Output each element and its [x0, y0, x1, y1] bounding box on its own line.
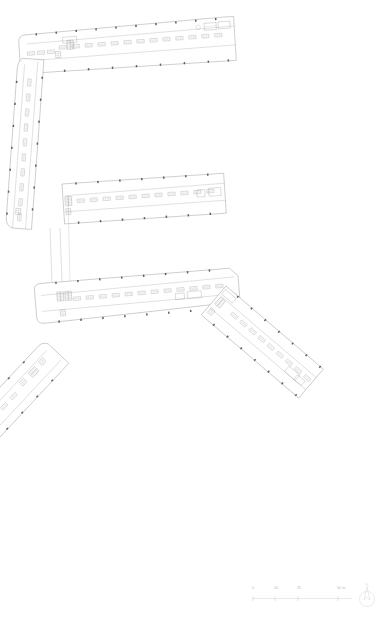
scale-tick-label-50: 50 m: [337, 586, 345, 591]
wing-central: [62, 173, 226, 225]
north-arrow-label: N: [366, 583, 369, 587]
wing-southwest: [0, 340, 69, 542]
scale-tick-label-10: 10: [274, 586, 278, 591]
scale-bar: 0 10 25 50 m: [252, 586, 360, 604]
wing-west: [5, 58, 44, 229]
wing-southeast: [201, 286, 324, 399]
north-arrow-icon: N: [358, 582, 376, 612]
scale-tick-label-25: 25: [297, 586, 301, 591]
scale-tick-label-0: 0: [252, 586, 254, 591]
floor-plan-drawing: [0, 0, 378, 627]
scale-bar-graphic: [252, 593, 360, 603]
wing-north: [18, 16, 236, 74]
